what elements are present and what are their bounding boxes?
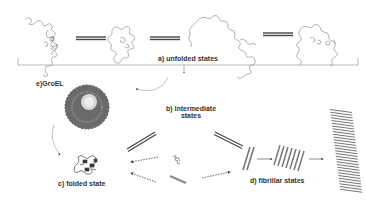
- equilibrium-arrow-2: [150, 37, 180, 40]
- intermediate-small-aggregate: [173, 155, 180, 164]
- diagram-canvas: [0, 0, 366, 205]
- equilibrium-arrow-folded-intermediate: [127, 132, 156, 152]
- equilibrium-arrow-intermediate-fibril: [214, 132, 243, 149]
- label-intermediate-states: b) intermediate states: [156, 105, 226, 119]
- dotted-arrow-rod-to-folded: [131, 173, 156, 182]
- equilibrium-arrow-3: [263, 33, 293, 36]
- label-fibrillar-states: d) fibrillar states: [250, 177, 304, 184]
- protofibril: [243, 147, 254, 170]
- curved-arrow-to-folded: [52, 125, 60, 155]
- label-folded-state: c) folded state: [58, 180, 105, 187]
- unfolded-coil-3: [189, 15, 257, 78]
- unfolded-coil-4: [297, 24, 338, 66]
- fibril-bundle: [274, 145, 304, 171]
- equilibrium-arrow-1: [76, 37, 106, 40]
- label-groel: e)GroEL: [36, 80, 64, 87]
- groel-chaperone: [65, 85, 109, 129]
- curved-arrow-to-groel: [136, 77, 168, 91]
- unfolded-coil-1: [25, 18, 58, 77]
- mature-fibril: [330, 110, 362, 193]
- label-unfolded-states: a) unfolded states: [140, 55, 236, 62]
- dotted-arrow-rod-to-fibril: [202, 172, 230, 178]
- folded-protein: [74, 156, 97, 175]
- label-intermediate-line1: b) intermediate: [156, 105, 226, 112]
- intermediate-rod: [170, 176, 186, 183]
- label-intermediate-line2: states: [156, 112, 226, 119]
- unfolded-coil-2: [108, 26, 135, 63]
- dotted-arrow-small-to-folded: [131, 157, 158, 162]
